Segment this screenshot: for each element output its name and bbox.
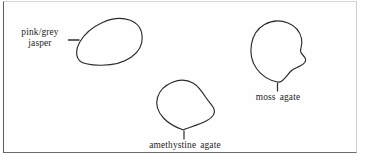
moss-agate-outline	[251, 21, 306, 82]
label-moss-agate: moss agate	[248, 92, 308, 103]
label-amethystine-agate: amethystine agate	[135, 140, 235, 151]
label-pink-grey-jasper-line1: pink/grey	[21, 27, 58, 37]
amethystine-outline	[157, 80, 215, 130]
specimen-drawings	[0, 0, 365, 161]
label-pink-grey-jasper: pink/grey jasper	[14, 27, 66, 48]
jasper-outline	[77, 18, 143, 65]
label-pink-grey-jasper-line2: jasper	[28, 38, 51, 48]
figure-plate: pink/grey jasper amethystine agate moss …	[0, 0, 365, 161]
